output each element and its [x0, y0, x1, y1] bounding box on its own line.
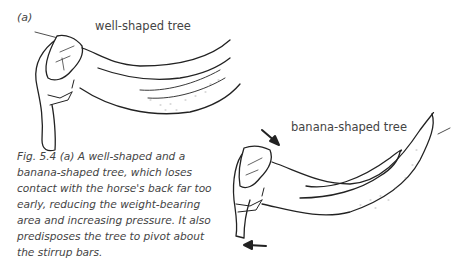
well-shaped-tree-drawing	[35, 32, 240, 151]
figure-caption: Fig. 5.4 (a) A well-shaped and a banana-…	[17, 148, 212, 260]
banana-shaped-tree-label: banana-shaped tree	[291, 120, 407, 134]
panel-label: (a)	[17, 11, 32, 24]
rotation-arrow-icon	[244, 241, 266, 249]
well-shaped-tree-label: well-shaped tree	[95, 19, 191, 33]
rotation-arrow-icon	[262, 130, 279, 145]
